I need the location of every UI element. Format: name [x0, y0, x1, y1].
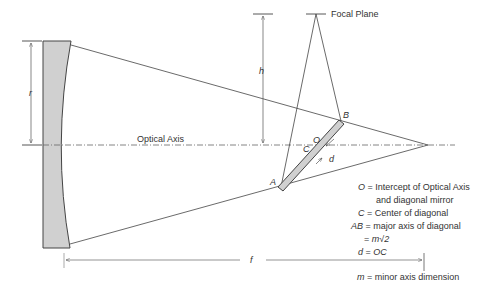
- legend-line-4: AB = major axis of diagonal: [350, 221, 461, 231]
- legend-line-5: = m√2: [364, 234, 389, 244]
- primary-mirror: [43, 41, 71, 248]
- legend-line-6: d = OC: [358, 247, 387, 257]
- point-b-label: B: [343, 110, 349, 120]
- f-label: f: [250, 255, 254, 265]
- upper-ray: [71, 45, 428, 145]
- reflected-ray-b: [316, 14, 341, 121]
- d-label: d: [329, 154, 335, 164]
- legend-line-3: C = Center of diagonal: [358, 208, 448, 218]
- r-label: r: [29, 88, 33, 98]
- diagonal-mirror: [278, 120, 344, 191]
- focal-plane-label: Focal Plane: [331, 9, 379, 19]
- legend-line-1: O = Intercept of Optical Axis: [358, 182, 470, 192]
- legend: O = Intercept of Optical Axis and diagon…: [350, 182, 470, 282]
- telescope-diagram: Focal Plane Optical Axis h r f B A O C d…: [0, 0, 487, 300]
- d-arrow-lower: [316, 158, 322, 164]
- footnote: m = minor axis dimension: [357, 272, 459, 282]
- point-c-label: C: [303, 144, 310, 154]
- legend-line-2: and diagonal mirror: [376, 195, 454, 205]
- point-o-label: O: [313, 135, 320, 145]
- optical-axis-label: Optical Axis: [137, 134, 185, 144]
- point-a-label: A: [269, 177, 276, 187]
- h-label: h: [259, 66, 264, 76]
